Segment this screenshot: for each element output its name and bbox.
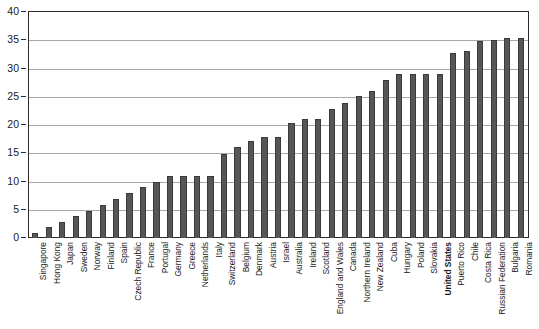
bar[interactable] xyxy=(329,109,335,238)
x-label-slot: Netherlands xyxy=(191,240,204,329)
x-label-slot: Puerto Rico xyxy=(447,240,460,329)
bar-slot xyxy=(353,12,366,238)
bar-slot xyxy=(177,12,190,238)
bar[interactable] xyxy=(342,103,348,238)
bar-slot xyxy=(447,12,460,238)
bar[interactable] xyxy=(100,205,106,238)
x-label-slot: Singapore xyxy=(29,240,42,329)
bar-slot xyxy=(204,12,217,238)
x-label-slot: France xyxy=(137,240,150,329)
bar-slot xyxy=(191,12,204,238)
y-tick-mark xyxy=(21,96,26,97)
x-label-slot: Australia xyxy=(285,240,298,329)
bar-slot xyxy=(285,12,298,238)
x-label-slot: Norway xyxy=(83,240,96,329)
bar-slot xyxy=(515,12,528,238)
bar[interactable] xyxy=(194,176,200,238)
bar-slot xyxy=(420,12,433,238)
y-tick-mark xyxy=(21,68,26,69)
bar[interactable] xyxy=(207,176,213,238)
x-label-slot: Cuba xyxy=(380,240,393,329)
bar[interactable] xyxy=(423,74,429,238)
bar-slot xyxy=(434,12,447,238)
bar[interactable] xyxy=(315,119,321,238)
y-tick-label: 30 xyxy=(7,62,19,73)
bar[interactable] xyxy=(86,211,92,238)
y-tick-label: 20 xyxy=(7,119,19,130)
bar[interactable] xyxy=(73,216,79,238)
bar[interactable] xyxy=(356,96,362,238)
bar[interactable] xyxy=(302,119,308,238)
bar[interactable] xyxy=(450,53,456,238)
bar[interactable] xyxy=(126,193,132,238)
bar[interactable] xyxy=(59,222,65,238)
bar-slot xyxy=(245,12,258,238)
x-label-slot: Finland xyxy=(96,240,109,329)
bar-slot xyxy=(474,12,487,238)
x-label-slot: Switzerland xyxy=(218,240,231,329)
bar-slot xyxy=(272,12,285,238)
bar[interactable] xyxy=(369,91,375,238)
y-tick-label: 40 xyxy=(7,6,19,17)
bar[interactable] xyxy=(248,141,254,238)
bar-slot xyxy=(258,12,271,238)
bar-slot xyxy=(29,12,42,238)
x-label-slot: Italy xyxy=(204,240,217,329)
bars-layer xyxy=(29,12,528,238)
bar[interactable] xyxy=(32,233,38,238)
y-tick-label: 15 xyxy=(7,147,19,158)
bar[interactable] xyxy=(410,74,416,238)
bar[interactable] xyxy=(437,74,443,238)
y-tick-label: 10 xyxy=(7,175,19,186)
x-label-slot: Spain xyxy=(110,240,123,329)
y-tick-mark xyxy=(21,39,26,40)
x-label-slot: Russian Federation xyxy=(488,240,501,329)
bar-slot xyxy=(501,12,514,238)
x-label-slot: Sweden xyxy=(69,240,82,329)
bar[interactable] xyxy=(504,38,510,238)
bar[interactable] xyxy=(383,80,389,238)
x-label-slot: Slovakia xyxy=(420,240,433,329)
x-label-slot: Hungary xyxy=(393,240,406,329)
x-label-slot: Hong Kong xyxy=(42,240,55,329)
bar[interactable] xyxy=(46,227,52,238)
bar[interactable] xyxy=(275,137,281,238)
x-label-slot: Israel xyxy=(272,240,285,329)
bar[interactable] xyxy=(518,38,524,238)
bar[interactable] xyxy=(113,199,119,238)
bar[interactable] xyxy=(396,74,402,238)
x-label-slot: New Zealand xyxy=(366,240,379,329)
x-axis: SingaporeHong KongJapanSwedenNorwayFinla… xyxy=(29,240,528,329)
bar[interactable] xyxy=(261,137,267,238)
bar-slot xyxy=(164,12,177,238)
x-label-slot: Romania xyxy=(515,240,528,329)
bar-slot xyxy=(366,12,379,238)
bar[interactable] xyxy=(477,41,483,238)
bar[interactable] xyxy=(140,187,146,238)
x-label-slot: England and Wales xyxy=(326,240,339,329)
x-label-slot: Portugal xyxy=(150,240,163,329)
x-tick-label: Romania xyxy=(525,242,533,276)
bar[interactable] xyxy=(234,147,240,238)
bar[interactable] xyxy=(288,123,294,238)
bar-slot xyxy=(393,12,406,238)
x-label-slot: Scotland xyxy=(312,240,325,329)
bar[interactable] xyxy=(464,51,470,238)
x-label-slot: Ireland xyxy=(299,240,312,329)
bar-slot xyxy=(312,12,325,238)
y-tick-label: 25 xyxy=(7,91,19,102)
bar-slot xyxy=(69,12,82,238)
bar[interactable] xyxy=(167,176,173,238)
bar-slot xyxy=(218,12,231,238)
x-label-slot: Belgium xyxy=(231,240,244,329)
x-label-slot: Chile xyxy=(461,240,474,329)
bar[interactable] xyxy=(491,40,497,238)
bar[interactable] xyxy=(153,182,159,239)
y-tick-mark xyxy=(21,152,26,153)
bar[interactable] xyxy=(180,176,186,238)
bar[interactable] xyxy=(221,154,227,238)
y-tick-mark xyxy=(21,209,26,210)
x-label-slot: Greece xyxy=(177,240,190,329)
bar-slot xyxy=(326,12,339,238)
y-tick-mark xyxy=(21,237,26,238)
